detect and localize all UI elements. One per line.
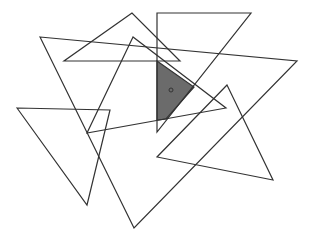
triangle-3 bbox=[40, 37, 297, 228]
triangle-5 bbox=[17, 108, 110, 205]
triangle-1 bbox=[64, 13, 180, 61]
triangle-overlap-diagram bbox=[0, 0, 311, 239]
